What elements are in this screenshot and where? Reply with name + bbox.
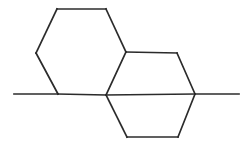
diagram-background (0, 0, 247, 147)
bond-v4-v5 (58, 94, 106, 95)
chemical-structure-diagram (0, 0, 247, 147)
bond-v8-v4 (106, 94, 195, 95)
structure-canvas (0, 0, 247, 147)
bond-v3-v7 (126, 52, 177, 53)
